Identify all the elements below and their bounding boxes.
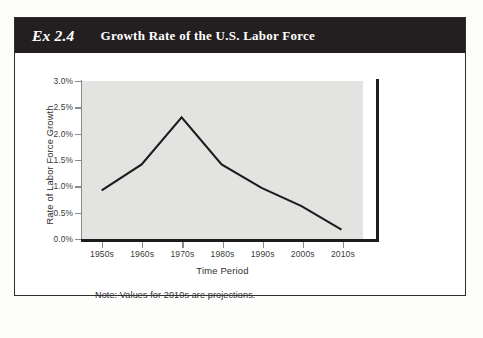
series-line [102, 117, 342, 229]
exhibit-header-bar: Ex 2.4 Growth Rate of the U.S. Labor For… [15, 18, 465, 53]
exhibit-card: Ex 2.4 Growth Rate of the U.S. Labor For… [14, 17, 466, 296]
exhibit-title: Growth Rate of the U.S. Labor Force [101, 28, 316, 44]
chart-note: Note: Values for 2010s are projections. [95, 290, 255, 300]
chart-body: 0.0%0.5%1.0%1.5%2.0%2.5%3.0% 1950s1960s1… [15, 53, 465, 295]
exhibit-number: Ex 2.4 [32, 27, 75, 45]
series-line-chart [15, 53, 465, 295]
